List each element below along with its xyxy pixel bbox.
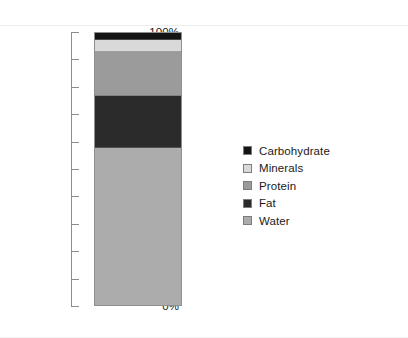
chart-legend: CarbohydrateMineralsProteinFatWater: [243, 142, 393, 230]
legend-swatch-icon: [243, 181, 252, 190]
figure-top-rule: [0, 25, 408, 26]
bar-segment-carbohydrate[interactable]: [95, 33, 181, 40]
y-axis-tick-mark: [71, 59, 79, 60]
chart-figure: 100%90%80%70%60%50%40%30%20%10%0% Carboh…: [0, 0, 408, 338]
bar-segment-protein[interactable]: [95, 52, 181, 96]
y-axis-tick-mark: [71, 251, 79, 252]
y-axis-tick-mark: [71, 224, 79, 225]
y-axis-tick-mark: [71, 169, 79, 170]
y-axis-tick-mark: [71, 114, 79, 115]
bar-segment-water[interactable]: [95, 148, 181, 306]
stacked-bar[interactable]: [94, 32, 182, 306]
legend-swatch-icon: [243, 199, 252, 208]
y-axis-tick-mark: [71, 196, 79, 197]
y-axis-tick-mark: [71, 279, 79, 280]
legend-item-protein[interactable]: Protein: [243, 177, 393, 195]
legend-item-minerals[interactable]: Minerals: [243, 160, 393, 178]
plot-area: 100%90%80%70%60%50%40%30%20%10%0%: [71, 32, 191, 306]
bar-segment-fat[interactable]: [95, 96, 181, 148]
y-axis-tick-mark: [71, 142, 79, 143]
legend-label: Protein: [259, 180, 296, 192]
legend-label: Water: [259, 215, 290, 227]
legend-swatch-icon: [243, 216, 252, 225]
legend-swatch-icon: [243, 146, 252, 155]
legend-item-fat[interactable]: Fat: [243, 195, 393, 213]
legend-item-carbohydrate[interactable]: Carbohydrate: [243, 142, 393, 160]
legend-swatch-icon: [243, 164, 252, 173]
legend-label: Fat: [259, 197, 276, 209]
y-axis-tick-mark: [71, 32, 79, 33]
y-axis-tick-mark: [71, 87, 79, 88]
legend-label: Minerals: [259, 162, 303, 174]
legend-item-water[interactable]: Water: [243, 212, 393, 230]
legend-label: Carbohydrate: [259, 145, 330, 157]
bar-segment-minerals[interactable]: [95, 40, 181, 52]
y-axis-tick-mark: [71, 306, 79, 307]
